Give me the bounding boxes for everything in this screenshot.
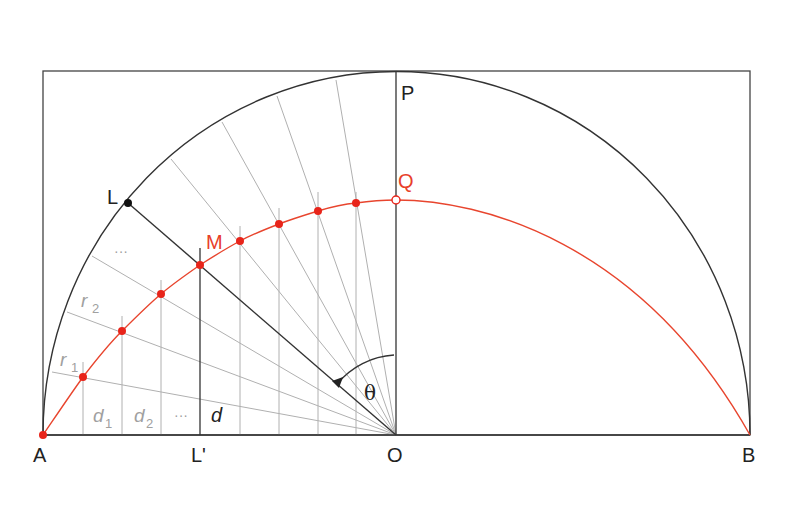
point-Q — [392, 196, 400, 204]
label-r2-sub: 2 — [92, 301, 99, 316]
label-L: L — [107, 186, 118, 208]
label-d1-sub: 1 — [105, 416, 112, 431]
grey-labels: r 1 r 2 d 1 d 2 ··· ··· — [60, 243, 188, 431]
label-L-prime: L' — [191, 444, 206, 466]
label-d: d — [211, 404, 223, 426]
label-Q: Q — [398, 170, 414, 192]
radial-rays — [52, 80, 396, 435]
label-d1: d — [93, 405, 105, 426]
label-d2-sub: 2 — [146, 416, 153, 431]
theta-arrowhead-icon — [332, 377, 343, 388]
label-r1: r — [60, 349, 67, 370]
label-A: A — [33, 444, 47, 466]
vertical-projections — [83, 192, 356, 435]
diagram-canvas: A B O L' P Q L M θ r 1 r 2 d 1 d 2 ··· ·… — [0, 0, 793, 510]
point-L — [124, 199, 132, 207]
label-M: M — [206, 231, 223, 253]
label-theta: θ — [364, 381, 376, 405]
label-ellipsis-d: ··· — [174, 407, 188, 423]
label-d2: d — [134, 405, 146, 426]
label-ellipsis-r: ··· — [114, 243, 128, 259]
label-r1-sub: 1 — [71, 360, 78, 375]
geometry-diagram: A B O L' P Q L M θ r 1 r 2 d 1 d 2 ··· ·… — [0, 0, 793, 510]
label-B: B — [742, 444, 755, 466]
label-P: P — [401, 82, 414, 104]
label-O: O — [387, 444, 403, 466]
label-r2: r — [81, 290, 88, 311]
